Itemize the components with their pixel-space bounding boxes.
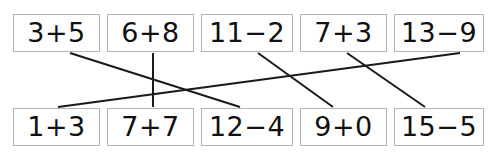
expression-card-bottom-label: 1+3 bbox=[27, 113, 85, 140]
expression-card-top-5[interactable]: 13−9 bbox=[394, 14, 484, 52]
expression-card-bottom-label: 7+7 bbox=[121, 113, 179, 140]
expression-card-top-2[interactable]: 6+8 bbox=[107, 14, 194, 52]
expression-card-bottom-4[interactable]: 9+0 bbox=[300, 108, 387, 146]
expression-card-bottom-5[interactable]: 15−5 bbox=[394, 108, 484, 146]
expression-card-top-label: 11−2 bbox=[209, 19, 285, 46]
expression-card-top-label: 3+5 bbox=[27, 19, 85, 46]
expression-card-top-label: 7+3 bbox=[314, 19, 372, 46]
expression-card-bottom-label: 12−4 bbox=[209, 113, 285, 140]
expression-card-top-label: 6+8 bbox=[121, 19, 179, 46]
expression-card-top-label: 13−9 bbox=[401, 19, 477, 46]
expression-card-top-1[interactable]: 3+5 bbox=[13, 14, 100, 52]
expression-card-top-4[interactable]: 7+3 bbox=[300, 14, 387, 52]
expression-card-top-3[interactable]: 11−2 bbox=[201, 14, 293, 52]
expression-card-bottom-label: 15−5 bbox=[401, 113, 477, 140]
expression-card-bottom-1[interactable]: 1+3 bbox=[13, 108, 100, 146]
expression-card-bottom-2[interactable]: 7+7 bbox=[107, 108, 194, 146]
matching-worksheet: 3+56+811−27+313−91+37+712−49+015−5 bbox=[0, 0, 500, 160]
link-11minus2-to-9plus0 bbox=[258, 53, 333, 107]
expression-card-bottom-label: 9+0 bbox=[314, 113, 372, 140]
link-13minus9-to-1plus3 bbox=[58, 53, 460, 107]
link-3plus5-to-12minus4 bbox=[70, 53, 240, 107]
link-7plus3-to-15minus5 bbox=[347, 53, 425, 107]
expression-card-bottom-3[interactable]: 12−4 bbox=[201, 108, 293, 146]
